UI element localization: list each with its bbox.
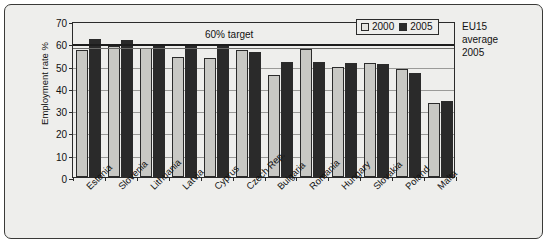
legend-swatch-2000-icon (361, 23, 369, 31)
bar (313, 62, 325, 177)
legend-item-2000: 2000 (361, 22, 394, 32)
bar (441, 101, 453, 177)
eu15-average-line (73, 48, 454, 49)
target-line-caption: 60% target (205, 29, 253, 40)
plot-area: 010203040506070 (72, 22, 455, 178)
bar (345, 63, 357, 177)
bar (76, 50, 88, 177)
legend-label-2000: 2000 (372, 22, 394, 32)
bar (409, 73, 421, 177)
bar (108, 46, 120, 177)
bar (300, 49, 312, 177)
bar (89, 39, 101, 177)
bar (121, 40, 133, 177)
chart-figure: Employment rate % 010203040506070 60% ta… (0, 0, 547, 243)
legend-item-2005: 2005 (399, 22, 432, 32)
bar (153, 44, 165, 177)
bar (236, 50, 248, 177)
bar (377, 64, 389, 177)
eu15-note-line-3: 2005 (462, 46, 498, 59)
legend-label-2005: 2005 (410, 22, 432, 32)
target-line-60 (73, 44, 454, 46)
legend-swatch-2005-icon (399, 23, 407, 31)
bar (249, 52, 261, 177)
bar (217, 44, 229, 177)
bar (185, 44, 197, 177)
chart-legend: 2000 2005 (356, 19, 439, 35)
bar (204, 58, 216, 177)
x-axis-labels: EstoniaSloveniaLithuaniaLatviaCyprusCzec… (72, 180, 455, 236)
bar (428, 103, 440, 177)
eu15-note-line-1: EU15 (462, 20, 498, 33)
eu15-average-note: EU15 average 2005 (462, 20, 498, 59)
eu15-note-line-2: average (462, 33, 498, 46)
